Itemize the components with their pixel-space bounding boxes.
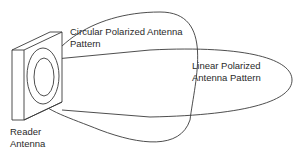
- linear-label-line2: Antenna Pattern: [192, 72, 261, 84]
- reader-antenna-label: Reader Antenna: [10, 126, 45, 150]
- circular-pattern-label: Circular Polarized Antenna Pattern: [70, 26, 182, 50]
- linear-label-line1: Linear Polarized: [192, 60, 261, 72]
- circular-label-line2: Pattern: [70, 38, 182, 50]
- reader-label-line2: Antenna: [10, 138, 45, 150]
- reader-label-line1: Reader: [10, 126, 45, 138]
- circular-label-line1: Circular Polarized Antenna: [70, 26, 182, 38]
- antenna-pattern-diagram: Circular Polarized Antenna Pattern Linea…: [0, 0, 295, 167]
- linear-pattern-label: Linear Polarized Antenna Pattern: [192, 60, 261, 84]
- reader-antenna-shape: [12, 32, 62, 120]
